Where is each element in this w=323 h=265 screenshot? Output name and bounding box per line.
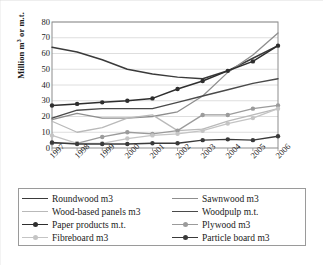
chart-legend: Roundwood m3Sawnwood m3Wood-based panels…: [18, 188, 306, 246]
legend-marker-icon: [183, 222, 188, 227]
data-point: [125, 142, 129, 146]
legend-label: Wood-based panels m3: [52, 207, 140, 217]
legend-entry[interactable]: Woodpulp m.t.: [172, 205, 303, 218]
legend-line-icon: [22, 211, 48, 212]
series-line: [52, 33, 278, 120]
chart-plot-region: Million m3 or m.t. 01020304050607080 199…: [0, 0, 323, 186]
data-point: [251, 106, 255, 110]
legend-label: Paper products m.t.: [52, 220, 126, 230]
legend-grid: Roundwood m3Sawnwood m3Wood-based panels…: [22, 192, 303, 244]
legend-marker-icon: [33, 235, 38, 240]
data-point: [75, 102, 79, 106]
legend-entry[interactable]: Particle board m3: [172, 231, 303, 244]
legend-swatch: [22, 194, 48, 204]
data-point: [276, 43, 280, 47]
legend-label: Fibreboard m3: [52, 233, 108, 243]
legend-entry[interactable]: Sawnwood m3: [172, 192, 303, 205]
data-point: [200, 138, 204, 142]
chart-figure: Million m3 or m.t. 01020304050607080 199…: [0, 0, 323, 265]
data-point: [200, 79, 204, 83]
data-point: [100, 100, 104, 104]
data-point: [276, 106, 280, 110]
data-point: [125, 136, 129, 140]
data-point: [226, 121, 230, 125]
legend-swatch: [22, 220, 48, 230]
data-point: [200, 113, 204, 117]
legend-line-icon: [22, 198, 48, 199]
data-point: [150, 133, 154, 137]
data-point: [150, 141, 154, 145]
data-point: [150, 96, 154, 100]
data-point: [226, 69, 230, 73]
legend-swatch: [22, 207, 48, 217]
legend-label: Particle board m3: [202, 233, 270, 243]
data-point: [251, 59, 255, 63]
legend-entry[interactable]: Fibreboard m3: [22, 231, 172, 244]
legend-label: Roundwood m3: [52, 194, 113, 204]
series-line: [52, 105, 278, 143]
data-point: [175, 132, 179, 136]
data-point: [175, 87, 179, 91]
data-point: [276, 134, 280, 138]
data-point: [251, 116, 255, 120]
series-7: [50, 134, 280, 146]
legend-swatch: [172, 194, 198, 204]
data-point: [50, 140, 54, 144]
data-point: [175, 141, 179, 145]
data-point: [226, 113, 230, 117]
data-point: [50, 103, 54, 107]
gridlines: [52, 22, 278, 132]
data-point: [50, 133, 54, 137]
series-0: [52, 46, 278, 79]
legend-swatch: [172, 207, 198, 217]
legend-swatch: [172, 220, 198, 230]
legend-swatch: [22, 233, 48, 243]
legend-entry[interactable]: Plywood m3: [172, 218, 303, 231]
data-point: [226, 137, 230, 141]
series-layer: [50, 33, 280, 146]
legend-entry[interactable]: Paper products m.t.: [22, 218, 172, 231]
data-point: [125, 130, 129, 134]
legend-label: Plywood m3: [202, 220, 250, 230]
legend-marker-icon: [183, 235, 188, 240]
legend-entry[interactable]: Roundwood m3: [22, 192, 172, 205]
data-point: [100, 142, 104, 146]
legend-entry[interactable]: Wood-based panels m3: [22, 205, 172, 218]
chart-canvas: [0, 0, 323, 186]
data-point: [251, 138, 255, 142]
data-point: [125, 99, 129, 103]
data-point: [100, 135, 104, 139]
series-line: [52, 46, 278, 79]
legend-line-icon: [172, 198, 198, 199]
series-1: [52, 33, 278, 120]
legend-marker-icon: [33, 222, 38, 227]
legend-label: Woodpulp m.t.: [202, 207, 259, 217]
data-point: [200, 128, 204, 132]
legend-line-icon: [172, 211, 198, 212]
data-point: [75, 142, 79, 146]
legend-swatch: [172, 233, 198, 243]
legend-label: Sawnwood m3: [202, 194, 259, 204]
